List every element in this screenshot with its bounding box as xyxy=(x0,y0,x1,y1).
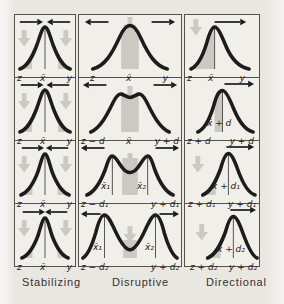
direction-arrowhead xyxy=(240,19,246,25)
panel-stabilizing-4: z x̄ y xyxy=(15,203,75,266)
mean-label-xbar-plus-d1: x̄ + d₁ xyxy=(212,181,240,191)
fitness-down-arrow-right xyxy=(60,30,73,47)
panel-directional-4: x̄ + d₂ z + d₂ y + d₂ xyxy=(185,203,259,266)
panel-disruptive-4: x̄₁ x̄₂ z − d₂ y + d₂ xyxy=(79,203,181,266)
peak-label-mean2: x̄₂ xyxy=(137,181,146,191)
peak-label-mean2: x̄₂ xyxy=(145,242,154,252)
trait-label-y: y xyxy=(67,199,72,209)
trait-label-y-plus-d1: y + d₁ xyxy=(228,199,256,209)
diverging-arrowhead-left xyxy=(83,82,89,88)
caption-stabilizing: Stabilizing xyxy=(22,276,81,288)
trait-label-y: y xyxy=(67,136,72,146)
trait-label-z: z xyxy=(17,136,22,146)
trait-label-mean: x̄ xyxy=(208,73,213,83)
diverging-arrowhead-right xyxy=(169,19,175,25)
trait-label-mean: x̄ xyxy=(40,199,45,209)
panel-disruptive-2: z − d x̄ y + d xyxy=(79,77,181,140)
trait-label-y-plus-d1: y + d₁ xyxy=(151,199,179,209)
fitness-down-arrow-right xyxy=(60,220,73,237)
trait-label-y: y xyxy=(67,262,72,272)
trait-label-z-plus-d1: z + d₁ xyxy=(188,199,215,209)
fitness-down-arrow-left xyxy=(191,156,204,173)
trait-label-z-plus-d2: z + d₂ xyxy=(190,262,217,272)
diverging-arrowhead-left xyxy=(81,211,87,217)
fitness-down-arrow-left xyxy=(18,156,31,173)
diverging-arrowhead-left xyxy=(85,19,91,25)
column-disruptive: z x̄ y z − d x̄ y + d xyxy=(78,14,182,267)
panel-stabilizing-2: z x̄ y xyxy=(15,77,75,140)
converging-arrowhead-right xyxy=(45,209,51,215)
mean-label-xbar-plus-d: x̄ + d xyxy=(207,118,231,128)
converging-arrowhead-right xyxy=(46,82,52,88)
trait-label-y-plus-d2: y + d₂ xyxy=(151,262,179,272)
trait-label-y: y xyxy=(240,73,245,83)
trait-label-y-plus-d2: y + d₂ xyxy=(229,262,257,272)
fitness-down-arrow-right xyxy=(60,156,73,173)
trait-label-z: z xyxy=(17,199,22,209)
caption-disruptive: Disruptive xyxy=(112,276,169,288)
trait-label-mean: x̄ xyxy=(40,262,45,272)
fitness-down-arrow-left xyxy=(18,93,31,110)
panel-directional-3: x̄ + d₁ z + d₁ y + d₁ xyxy=(185,140,259,203)
peak-label-mean1: x̄₁ xyxy=(93,242,102,252)
distribution-curve xyxy=(191,27,249,69)
trait-label-y: y xyxy=(163,73,168,83)
trait-label-z-plus-d: z + d xyxy=(187,136,211,146)
fitness-down-arrow-left xyxy=(189,19,202,36)
trait-label-mean: x̄ xyxy=(126,73,131,83)
panel-stabilizing-1: z x̄ y xyxy=(15,15,75,77)
trait-label-mean: x̄ xyxy=(40,73,45,83)
diverging-arrowhead-right xyxy=(173,211,179,217)
trait-label-z: z xyxy=(187,73,192,83)
fitness-down-arrow-left xyxy=(18,30,31,47)
trait-label-z: z xyxy=(90,73,95,83)
panel-disruptive-1: z x̄ y xyxy=(79,15,181,77)
panel-directional-2: x̄ + d z + d y + d xyxy=(185,77,259,140)
trait-label-mean: x̄ xyxy=(40,136,45,146)
fitness-down-arrow-left xyxy=(18,220,31,237)
trait-label-z-minus-d1: z − d₁ xyxy=(81,199,108,209)
fitness-down-arrow-left xyxy=(195,224,208,241)
panel-directional-1: z x̄ y xyxy=(185,15,259,77)
column-stabilizing: z x̄ y z x̄ y xyxy=(14,14,76,267)
converging-arrowhead-left xyxy=(39,209,45,215)
fitness-down-arrow-right xyxy=(60,93,73,110)
caption-directional: Directional xyxy=(206,276,267,288)
converging-arrowhead-left xyxy=(37,19,43,25)
trait-label-z: z xyxy=(17,73,22,83)
trait-label-mean: x̄ xyxy=(126,136,131,146)
trait-label-z-minus-d2: z − d₂ xyxy=(81,262,108,272)
converging-arrowhead-right xyxy=(46,145,52,151)
panel-stabilizing-3: z x̄ y xyxy=(15,140,75,203)
column-directional: z x̄ y x̄ + d z + d y + d xyxy=(184,14,260,267)
trait-label-z-minus-d: z − d xyxy=(81,136,105,146)
peak-label-mean1: x̄₁ xyxy=(101,181,110,191)
panel-disruptive-3: x̄₁ x̄₂ z − d₁ y + d₁ xyxy=(79,140,181,203)
trait-label-y-plus-d: y + d xyxy=(230,136,254,146)
trait-label-y: y xyxy=(67,73,72,83)
trait-label-z: z xyxy=(17,262,22,272)
selection-modes-figure: z x̄ y z x̄ y xyxy=(0,0,284,304)
direction-arrowhead xyxy=(248,81,254,87)
mean-label-xbar-plus-d2: x̄ + d₂ xyxy=(217,244,245,254)
diverging-arrowhead-right xyxy=(171,82,177,88)
trait-label-y-plus-d: y + d xyxy=(155,136,179,146)
culled-center-band xyxy=(121,30,139,69)
converging-arrowhead-right xyxy=(47,19,53,25)
